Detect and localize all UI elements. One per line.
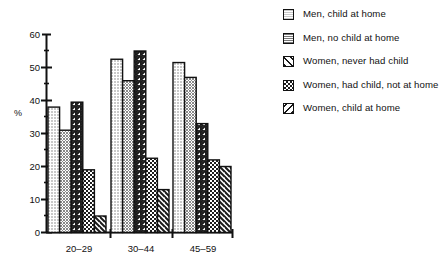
legend-label: Women, had child, not at home bbox=[303, 79, 439, 92]
legend-label: Women, child at home bbox=[303, 102, 400, 115]
legend-label: Men, no child at home bbox=[303, 32, 400, 45]
bar bbox=[208, 160, 220, 233]
legend-item: Women, had child, not at home bbox=[283, 79, 443, 92]
legend-item: Men, child at home bbox=[283, 8, 443, 21]
legend-label: Women, never had child bbox=[303, 55, 408, 68]
legend-swatch-diagonal-hatch-forward-icon bbox=[283, 56, 294, 67]
bar bbox=[157, 190, 169, 233]
bar bbox=[196, 124, 208, 233]
legend-item: Men, no child at home bbox=[283, 32, 443, 45]
bar bbox=[60, 130, 72, 232]
bar bbox=[71, 102, 83, 232]
bar bbox=[185, 77, 197, 232]
bar bbox=[94, 216, 106, 233]
bar bbox=[219, 167, 231, 233]
bar-series-group bbox=[0, 0, 240, 268]
bar bbox=[83, 170, 95, 233]
bar bbox=[48, 107, 60, 232]
x-tick-label: 30–44 bbox=[128, 243, 154, 254]
bar bbox=[173, 63, 185, 233]
legend-swatch-dark-stipple-icon bbox=[283, 33, 294, 44]
x-tick-label: 20–29 bbox=[66, 243, 92, 254]
bar bbox=[111, 59, 123, 232]
legend-swatch-diagonal-hatch-backward-icon bbox=[283, 103, 294, 114]
legend-swatch-light-stipple-icon bbox=[283, 9, 294, 20]
legend-swatch-checkerboard-icon bbox=[283, 80, 294, 91]
plot-area: 60 50 40 30 20 10 0 % bbox=[0, 0, 240, 268]
bar bbox=[123, 81, 135, 233]
x-tick-label: 45–59 bbox=[190, 243, 216, 254]
bar bbox=[134, 51, 146, 233]
bar-chart: 60 50 40 30 20 10 0 % bbox=[0, 0, 446, 268]
legend-label: Men, child at home bbox=[303, 8, 386, 21]
bar bbox=[146, 158, 158, 232]
legend-item: Women, child at home bbox=[283, 102, 443, 115]
legend-item: Women, never had child bbox=[283, 55, 443, 68]
chart-legend: Men, child at home Men, no child at home… bbox=[283, 8, 443, 126]
